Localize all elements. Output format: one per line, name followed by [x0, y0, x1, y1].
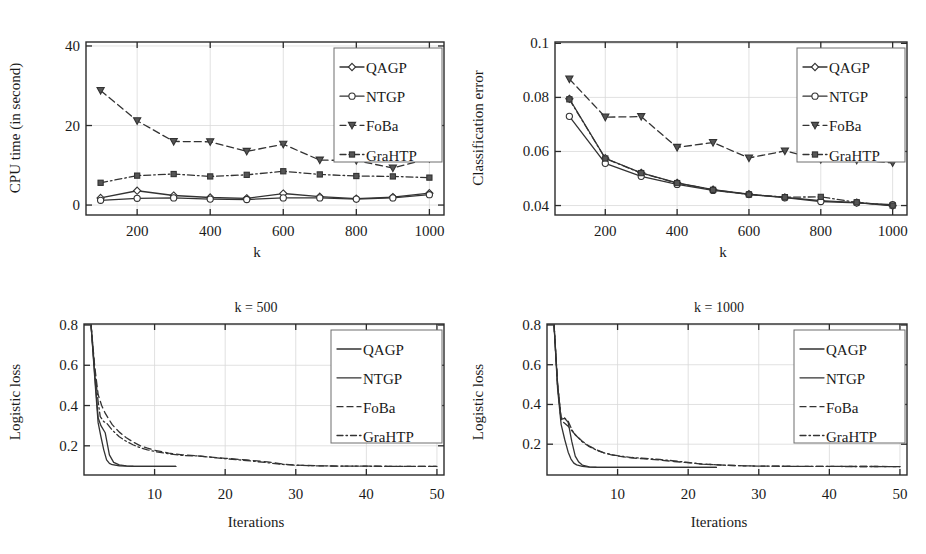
- x-tick-label: 800: [810, 223, 833, 239]
- x-tick-label: 1000: [414, 223, 444, 239]
- legend-label-foba: FoBa: [826, 400, 859, 416]
- x-tick-label: 400: [199, 223, 222, 239]
- marker-circle: [98, 197, 104, 203]
- legend-label-grahtp: GraHTP: [829, 148, 880, 164]
- marker-circle: [426, 192, 432, 198]
- marker-square: [710, 187, 715, 192]
- marker-triangle-down: [243, 148, 250, 155]
- marker-circle: [353, 196, 359, 202]
- y-tick-label: 0.4: [59, 398, 78, 414]
- marker-circle: [317, 195, 323, 201]
- legend-label-grahtp: GraHTP: [366, 148, 417, 164]
- marker-square: [427, 175, 432, 180]
- x-axis-title: k: [719, 244, 727, 260]
- marker-square: [171, 171, 176, 176]
- marker-square: [349, 152, 354, 157]
- x-tick-label: 20: [218, 486, 233, 502]
- x-tick-label: 1000: [878, 223, 908, 239]
- series-line-ntgp: [554, 325, 716, 467]
- marker-circle: [812, 93, 818, 99]
- x-axis-title: Iterations: [691, 514, 748, 530]
- chart-logistic-loss-k1000: k = 100010203040500.20.40.60.8Iterations…: [463, 277, 926, 554]
- x-tick-label: 600: [738, 223, 761, 239]
- y-tick-label: 40: [65, 38, 80, 54]
- x-tick-label: 30: [751, 486, 766, 502]
- legend-label-ntgp: NTGP: [363, 371, 402, 387]
- marker-square: [567, 97, 572, 102]
- x-tick-label: 20: [681, 486, 696, 502]
- x-tick-label: 600: [272, 223, 295, 239]
- y-tick-label: 0.8: [522, 317, 541, 333]
- series-line-qagp: [101, 191, 430, 199]
- marker-square: [890, 203, 895, 208]
- legend-label-qagp: QAGP: [826, 342, 867, 358]
- panel-logistic-loss-k1000: k = 100010203040500.20.40.60.8Iterations…: [463, 277, 926, 554]
- legend-label-foba: FoBa: [363, 400, 396, 416]
- marker-square: [818, 194, 823, 199]
- marker-square: [639, 171, 644, 176]
- x-axis-title: Iterations: [228, 514, 285, 530]
- y-axis-title: Logistic loss: [7, 364, 23, 440]
- marker-circle: [280, 195, 286, 201]
- y-tick-label: 0: [73, 197, 81, 213]
- y-tick-label: 0.4: [522, 396, 541, 412]
- marker-square: [244, 172, 249, 177]
- marker-square: [317, 172, 322, 177]
- legend-label-foba: FoBa: [366, 118, 399, 134]
- x-tick-label: 400: [666, 223, 689, 239]
- x-tick-label: 40: [822, 486, 837, 502]
- x-tick-label: 10: [147, 486, 162, 502]
- marker-circle: [207, 196, 213, 202]
- marker-square: [98, 180, 103, 185]
- y-tick-label: 0.08: [523, 89, 549, 105]
- legend-label-qagp: QAGP: [366, 60, 407, 76]
- marker-square: [135, 173, 140, 178]
- panel-title: k = 500: [235, 300, 278, 315]
- series-line-grahtp: [101, 171, 430, 183]
- marker-triangle-down: [134, 118, 141, 125]
- y-tick-label: 0.06: [523, 143, 550, 159]
- x-tick-label: 200: [126, 223, 149, 239]
- marker-square: [354, 173, 359, 178]
- y-tick-label: 0.8: [59, 317, 78, 333]
- marker-square: [782, 195, 787, 200]
- x-tick-label: 40: [359, 486, 374, 502]
- y-tick-label: 0.2: [59, 438, 78, 454]
- chart-logistic-loss-k500: k = 50010203040500.20.40.60.8IterationsL…: [0, 277, 463, 554]
- y-tick-label: 20: [65, 118, 80, 134]
- legend-label-ntgp: NTGP: [829, 89, 868, 105]
- panel-title: k = 1000: [694, 300, 744, 315]
- marker-square: [812, 152, 817, 157]
- marker-diamond: [134, 187, 141, 194]
- x-axis-title: k: [253, 244, 261, 260]
- x-tick-label: 50: [892, 486, 907, 502]
- x-tick-label: 30: [288, 486, 303, 502]
- legend-label-grahtp: GraHTP: [826, 429, 877, 445]
- legend-label-grahtp: GraHTP: [363, 429, 414, 445]
- legend-label-foba: FoBa: [829, 118, 862, 134]
- chart-cpu-time: 200400600800100002040kCPU time (in secon…: [0, 0, 463, 277]
- x-tick-label: 50: [429, 486, 444, 502]
- legend-label-ntgp: NTGP: [366, 89, 405, 105]
- series-line-qagp: [554, 325, 716, 467]
- marker-triangle-down: [745, 155, 752, 162]
- marker-circle: [390, 195, 396, 201]
- legend-label-qagp: QAGP: [829, 60, 870, 76]
- x-tick-label: 200: [594, 223, 617, 239]
- panel-classification-error: 20040060080010000.040.060.080.1kClassifi…: [463, 0, 926, 277]
- x-tick-label: 800: [345, 223, 368, 239]
- marker-square: [208, 174, 213, 179]
- y-axis-title: Classification error: [470, 70, 486, 185]
- x-tick-label: 10: [610, 486, 625, 502]
- marker-circle: [244, 196, 250, 202]
- chart-classification-error: 20040060080010000.040.060.080.1kClassifi…: [463, 0, 926, 277]
- y-axis-title: Logistic loss: [470, 364, 486, 440]
- marker-triangle-down: [389, 165, 396, 172]
- marker-circle: [349, 93, 355, 99]
- legend-label-qagp: QAGP: [363, 342, 404, 358]
- marker-square: [854, 200, 859, 205]
- y-tick-label: 0.6: [522, 357, 541, 373]
- marker-square: [390, 174, 395, 179]
- y-tick-label: 0.6: [59, 357, 78, 373]
- y-tick-label: 0.1: [530, 35, 549, 51]
